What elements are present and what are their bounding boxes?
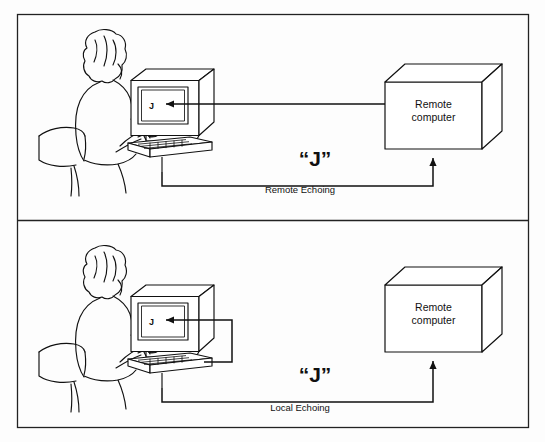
screen-character-top: J <box>149 101 154 111</box>
remote-computer-label-line1: Remote <box>415 98 452 110</box>
screen-character-bottom: J <box>149 317 154 327</box>
panel-caption-local: Local Echoing <box>270 402 330 413</box>
remote-computer-label-line2: computer <box>412 314 456 326</box>
remote-computer-label-line2: computer <box>412 111 456 123</box>
transmitted-character-bottom: “J” <box>299 363 332 386</box>
transmitted-character-top: “J” <box>299 147 332 170</box>
remote-computer-label-line1: Remote <box>415 301 452 313</box>
echoing-diagram: J Remote computer “J” Remote Echoing <box>0 0 545 442</box>
panel-caption-remote: Remote Echoing <box>265 184 335 195</box>
